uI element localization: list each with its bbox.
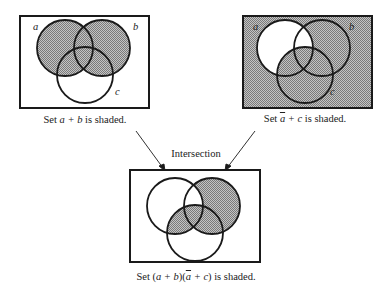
label-b: b (349, 21, 354, 32)
arrow-right (227, 131, 255, 168)
caption-expression: + c (285, 113, 302, 124)
caption-text: Set ( (136, 271, 156, 282)
caption-expression: + c (191, 271, 208, 282)
caption-expression: a + b (156, 271, 179, 282)
diagram-a-plus-b (20, 16, 149, 108)
label-b: b (133, 21, 138, 32)
label-c: c (330, 86, 335, 97)
venn-diagram-canvas (0, 0, 382, 288)
label-c: c (115, 86, 120, 97)
caption-text: Set (264, 113, 280, 124)
caption-text: Set (44, 114, 60, 125)
diagram-intersection-result (130, 170, 260, 262)
caption-text: is shaded. (82, 114, 126, 125)
caption-text: is shaded. (302, 113, 346, 124)
caption-abar-plus-c: Set a + c is shaded. (264, 113, 346, 124)
caption-expression: a + b (60, 114, 83, 125)
arrow-left (136, 131, 163, 168)
caption-text: ) is shaded. (208, 271, 256, 282)
intersection-label: Intersection (171, 148, 221, 159)
caption-a-plus-b: Set a + b is shaded. (44, 114, 127, 125)
label-a: a (33, 21, 38, 32)
caption-result: Set (a + b)(a + c) is shaded. (136, 271, 255, 282)
label-a: a (253, 21, 258, 32)
